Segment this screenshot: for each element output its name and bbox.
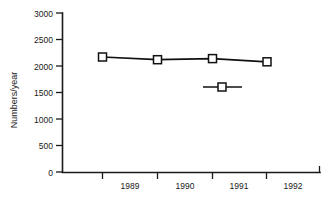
y-tick-label-0: 0 (48, 168, 53, 178)
x-tick-label-1992: 1992 (284, 181, 303, 191)
line-chart: 3000 2500 2000 1500 1000 500 0 1989 1990… (0, 0, 334, 197)
y-axis-title: Numbers/year (9, 72, 19, 129)
y-tick-label-2000: 2000 (34, 62, 53, 72)
series-1-point-2 (154, 56, 162, 64)
y-tick-label-3000: 3000 (34, 9, 53, 19)
x-tick-label-1989: 1989 (121, 181, 140, 191)
x-tick-label-1990: 1990 (176, 181, 195, 191)
series-1-point-4 (263, 58, 271, 66)
y-tick-label-500: 500 (39, 141, 53, 151)
x-tick-label-1991: 1991 (230, 181, 249, 191)
series-1-point-1 (99, 53, 107, 61)
series-1-point-3 (209, 55, 217, 63)
series-1-line (103, 57, 268, 62)
x-axis-ticks (103, 173, 267, 180)
chart-canvas: 3000 2500 2000 1500 1000 500 0 1989 1990… (0, 0, 334, 197)
y-axis-tick-labels: 3000 2500 2000 1500 1000 500 0 (34, 9, 53, 178)
series-2-point-1 (218, 83, 226, 91)
y-tick-label-1500: 1500 (34, 88, 53, 98)
y-axis-ticks (56, 13, 63, 172)
x-axis-tick-labels: 1989 1990 1991 1992 (121, 181, 303, 191)
y-tick-label-2500: 2500 (34, 35, 53, 45)
y-tick-label-1000: 1000 (34, 115, 53, 125)
